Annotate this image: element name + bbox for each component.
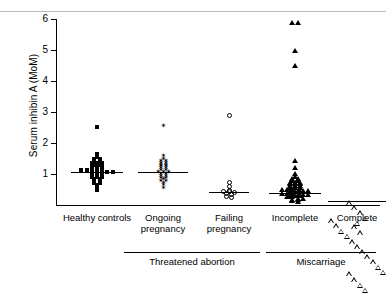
data-point <box>292 48 298 53</box>
data-point <box>95 125 99 129</box>
y-tick-label-3: 3 <box>30 107 48 117</box>
data-point <box>362 288 368 293</box>
data-point <box>333 223 339 228</box>
data-point <box>161 123 166 128</box>
data-point <box>292 63 298 68</box>
y-tick-label-1: 1 <box>30 169 48 179</box>
y-tick-label-4: 4 <box>30 76 48 86</box>
bracket-label-0: Threatened abortion <box>124 256 260 267</box>
data-point <box>351 277 357 282</box>
bracket-line-1 <box>266 252 376 253</box>
data-point <box>295 20 301 25</box>
y-tick-label-5: 5 <box>30 45 48 55</box>
median-line <box>209 192 249 193</box>
bracket-line-0 <box>124 252 260 253</box>
data-point <box>344 234 350 239</box>
data-point <box>357 283 363 288</box>
x-axis-line <box>56 205 380 206</box>
data-point <box>292 171 298 176</box>
y-tick-label-6: 6 <box>30 14 48 24</box>
data-point <box>380 270 386 275</box>
median-line <box>269 193 321 194</box>
y-tick-3 <box>51 112 56 113</box>
y-tick-1 <box>51 174 56 175</box>
y-tick-label-2: 2 <box>30 138 48 148</box>
plot-area <box>57 19 379 205</box>
data-point <box>354 244 360 249</box>
data-point <box>346 271 352 276</box>
y-tick-5 <box>51 50 56 51</box>
y-tick-2 <box>51 143 56 144</box>
data-point <box>357 230 363 235</box>
data-point <box>292 165 298 170</box>
x-group-label-4: Complete <box>315 212 386 223</box>
data-point <box>227 180 232 185</box>
data-point <box>351 224 357 229</box>
median-line <box>328 201 386 202</box>
median-line <box>138 172 188 173</box>
bracket-label-1: Miscarriage <box>266 256 376 267</box>
median-line <box>71 172 123 173</box>
data-point <box>161 153 166 158</box>
y-tick-4 <box>51 81 56 82</box>
data-point <box>227 113 232 118</box>
y-tick-6 <box>51 19 56 20</box>
data-point <box>292 158 298 163</box>
data-point <box>95 152 99 156</box>
top-rule <box>0 11 386 12</box>
